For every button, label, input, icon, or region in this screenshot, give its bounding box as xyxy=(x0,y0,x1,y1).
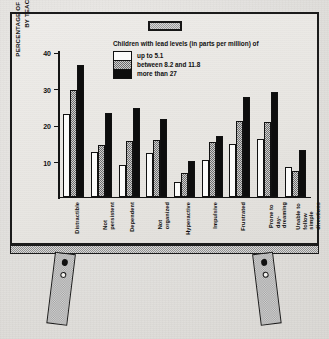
y-axis-tick: 40 xyxy=(54,53,59,54)
bar xyxy=(257,139,264,196)
y-axis-tick-label: 10 xyxy=(43,159,51,166)
leg-bolt-light-icon xyxy=(262,271,269,278)
plot-area: 10203040 xyxy=(58,51,311,198)
bar xyxy=(264,122,271,196)
legend-title: Children with lead levels (in parts per … xyxy=(113,40,313,47)
x-axis-category-label: Dependent xyxy=(129,202,136,232)
x-axis-category-label: Frustrated xyxy=(240,202,247,231)
bar-groups xyxy=(60,51,309,197)
bar xyxy=(229,144,236,197)
y-axis-tick: 20 xyxy=(54,126,59,127)
bar-group xyxy=(198,51,226,197)
bar-group xyxy=(254,51,282,197)
x-axis-category-label: Impulsive xyxy=(212,202,219,229)
bar-group xyxy=(171,51,199,197)
easel-leg-right xyxy=(252,252,282,326)
bar xyxy=(119,165,126,196)
y-axis-title: PERCENTAGE OF CHILDREN REPORTED BY TEACH… xyxy=(14,0,36,68)
bar xyxy=(209,142,216,196)
bar xyxy=(285,167,292,197)
easel-leg-left xyxy=(46,252,76,326)
bar-group xyxy=(88,51,116,197)
leg-bolt-dark-icon xyxy=(61,259,68,267)
page-background: PERCENTAGE OF CHILDREN REPORTED BY TEACH… xyxy=(0,0,329,339)
bar xyxy=(146,153,153,197)
board-clip-icon xyxy=(148,21,182,31)
bar xyxy=(243,97,250,197)
bar xyxy=(77,65,84,196)
bar-group xyxy=(143,51,171,197)
bar xyxy=(188,161,195,197)
bar xyxy=(292,171,299,197)
bar xyxy=(63,114,70,196)
bar xyxy=(299,150,306,197)
bar-group xyxy=(281,51,309,197)
x-axis-line xyxy=(58,197,311,199)
bar xyxy=(160,119,167,197)
bar xyxy=(126,141,133,196)
bar-group xyxy=(115,51,143,197)
bar xyxy=(91,152,98,197)
y-axis-tick: 10 xyxy=(54,162,59,163)
bar xyxy=(236,121,243,197)
bar xyxy=(133,108,140,196)
bar xyxy=(271,92,278,196)
x-axis-category-label: Not persistent xyxy=(102,202,115,230)
bar xyxy=(98,145,105,196)
bar xyxy=(216,136,223,197)
y-axis-tick-label: 30 xyxy=(43,86,51,93)
y-axis-tick-label: 20 xyxy=(43,123,51,130)
easel-board: PERCENTAGE OF CHILDREN REPORTED BY TEACH… xyxy=(10,12,319,245)
bar xyxy=(105,113,112,196)
bar-group xyxy=(60,51,88,197)
bar xyxy=(202,160,209,196)
leg-bolt-dark-icon xyxy=(260,259,267,267)
bar xyxy=(153,140,160,197)
bar xyxy=(181,173,188,197)
x-axis-category-label: Unable to follow simple directions xyxy=(295,202,321,230)
x-axis-category-label: Not organized xyxy=(157,202,170,229)
x-axis-category-label: Hyperactive xyxy=(185,202,192,235)
bar xyxy=(174,182,181,197)
leg-bolt-light-icon xyxy=(59,271,66,278)
x-axis-category-label: Distractible xyxy=(74,202,81,234)
y-axis-tick: 30 xyxy=(54,89,59,90)
bar xyxy=(70,90,77,196)
y-axis-tick-label: 40 xyxy=(43,50,51,57)
bar-group xyxy=(226,51,254,197)
